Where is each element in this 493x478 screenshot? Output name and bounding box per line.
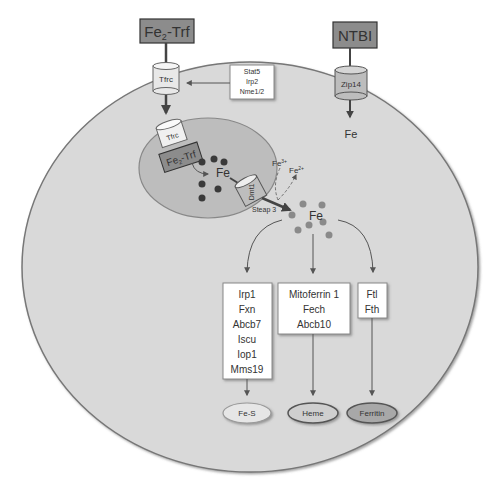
heme-gene-box: Mitoferrin 1 Fech Abcb10 (278, 283, 350, 334)
svg-text:Fe: Fe (309, 209, 323, 223)
svg-text:Zip14: Zip14 (341, 80, 362, 89)
svg-text:Fech: Fech (303, 304, 325, 315)
svg-text:Ferritin: Ferritin (360, 409, 385, 418)
svg-text:Abcb7: Abcb7 (233, 319, 262, 330)
svg-text:Mms19: Mms19 (231, 364, 264, 375)
svg-text:Tfrc: Tfrc (159, 75, 173, 84)
svg-text:Ftl: Ftl (366, 289, 377, 300)
fes-gene-box: Irp1 Fxn Abcb7 Iscu Iop1 Mms19 (223, 283, 272, 379)
svg-text:Abcb10: Abcb10 (297, 319, 331, 330)
svg-text:Mitoferrin 1: Mitoferrin 1 (289, 289, 339, 300)
fe2-trf-box: Fe2-Trf (140, 19, 194, 43)
zip14-fe-label: Fe (345, 128, 358, 140)
svg-text:Irp2: Irp2 (246, 78, 258, 86)
heme-product: Heme (288, 403, 338, 423)
steap3-label: Steap 3 (252, 206, 276, 214)
svg-text:Heme: Heme (302, 409, 324, 418)
svg-text:Dmt1: Dmt1 (248, 183, 255, 200)
svg-text:Nme1/2: Nme1/2 (240, 88, 265, 95)
svg-text:Irp1: Irp1 (238, 289, 256, 300)
endosome: Tfrc Fe2-Trf Fe Dmt1 (139, 117, 277, 218)
svg-text:NTBI: NTBI (338, 27, 372, 44)
tfrc-receptor: Tfrc (153, 63, 179, 95)
iron-metabolism-diagram: Fe2-Trf Tfrc Stat5 Irp2 Nme1/2 NTBI Zip1… (0, 0, 493, 478)
svg-text:Fth: Fth (365, 304, 379, 315)
svg-text:Stat5: Stat5 (244, 68, 260, 75)
ferritin-product: Ferritin (347, 403, 397, 423)
ntbi-box: NTBI (333, 22, 377, 48)
svg-text:Iscu: Iscu (238, 334, 256, 345)
svg-text:Fe2-Trf: Fe2-Trf (144, 23, 190, 42)
svg-text:Fxn: Fxn (239, 304, 256, 315)
regulators-box: Stat5 Irp2 Nme1/2 (230, 65, 274, 99)
svg-text:Iop1: Iop1 (237, 349, 257, 360)
svg-text:Fe-S: Fe-S (238, 409, 255, 418)
zip14-transporter: Zip14 (335, 66, 367, 100)
fes-product: Fe-S (223, 403, 271, 423)
svg-text:Fe: Fe (216, 166, 230, 180)
ferritin-gene-box: Ftl Fth (358, 283, 387, 318)
